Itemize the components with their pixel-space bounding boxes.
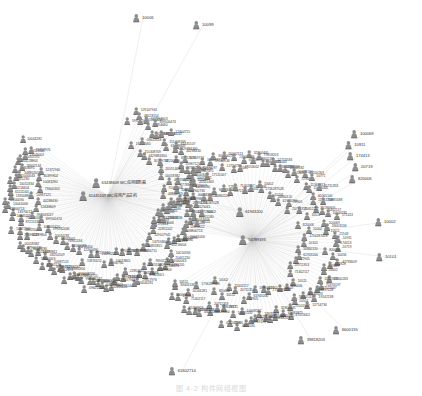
graph-node-label: 1756287028 (201, 283, 219, 286)
person-node-icon (29, 211, 36, 219)
graph-node-label: 174413 (356, 154, 370, 158)
graph-satellite-node[interactable]: 61602714 (168, 367, 196, 376)
graph-node[interactable]: 71402117 (287, 269, 309, 277)
graph-node[interactable]: 20885588 (320, 197, 343, 205)
graph-node[interactable]: 12372940 (8, 226, 31, 234)
person-node-icon (16, 241, 23, 249)
graph-node[interactable]: 09601418 (81, 285, 104, 293)
graph-node[interactable]: 41100263 (218, 320, 240, 328)
graph-node-label: 100069 (360, 132, 374, 136)
graph-node-label: 61445107 (68, 278, 83, 281)
graph-node-label: 63438609 WC应用服务器 (102, 181, 147, 185)
person-node-icon (28, 191, 35, 199)
person-node-icon (303, 212, 310, 220)
graph-satellite-node[interactable]: 100069 (350, 130, 373, 139)
graph-node[interactable]: 10511 (171, 279, 188, 287)
graph-node-label: 10511 (201, 221, 210, 224)
person-node-icon (232, 183, 239, 191)
graph-node-label: 13113048 (144, 272, 158, 275)
graph-node-label: 820006 (219, 290, 230, 293)
person-node-icon (332, 326, 340, 335)
person-node-icon (297, 336, 305, 345)
graph-node-label: 171413 (342, 214, 353, 217)
graph-satellite-node[interactable]: 10006 (133, 14, 154, 23)
person-node-icon (199, 157, 206, 165)
graph-satellite-node[interactable]: 10101 (376, 253, 397, 262)
graph-hub-node[interactable]: 61445107 WC应用产品主机 (79, 191, 138, 201)
graph-satellite-node[interactable]: 6600155 (332, 326, 357, 335)
person-node-icon (79, 258, 86, 266)
graph-node-label: 33003136 (168, 217, 183, 220)
person-node-icon (36, 223, 43, 231)
graph-node-label: 10002 (384, 220, 395, 224)
graph-node-label: 20711353 (324, 185, 338, 188)
graph-node-label: 10002 (328, 269, 337, 272)
graph-node[interactable]: 35199909 (181, 305, 204, 313)
graph-node-label: 72905 (249, 298, 258, 301)
graph-satellite-node[interactable]: 174413 (346, 152, 369, 161)
graph-node[interactable]: 47053002 (236, 164, 259, 172)
graph-satellite-node[interactable]: 20719 (352, 163, 373, 172)
person-node-icon (199, 209, 206, 217)
graph-node[interactable]: 17511007 (204, 172, 226, 180)
graph-node[interactable]: 10002 (320, 267, 337, 275)
graph-node[interactable]: 998543247 (29, 211, 54, 219)
graph-satellite-node[interactable]: 39818203 (297, 336, 325, 345)
person-node-icon (189, 177, 196, 185)
graph-node[interactable]: 10002 (199, 209, 216, 217)
graph-node[interactable]: 09601418 (139, 137, 162, 145)
graph-node-label: 6600155 (342, 328, 358, 332)
person-node-icon (275, 198, 282, 206)
graph-node[interactable]: 19857976 (28, 146, 51, 154)
graph-satellite-node[interactable]: 10911 (345, 141, 366, 150)
graph-node-label: 44288430 (43, 200, 58, 203)
graph-node-label: 820006 (358, 177, 372, 181)
graph-node[interactable]: 00018382 (16, 241, 39, 249)
graph-node-label: 10006 (142, 16, 153, 20)
graph-node-label: 20551463 (165, 168, 180, 171)
graph-node-label: 105105420 (44, 226, 61, 229)
person-node-icon (375, 218, 383, 227)
graph-node[interactable]: 399500474 (151, 119, 176, 127)
person-node-icon (308, 173, 315, 181)
graph-node[interactable]: 12404715 (167, 128, 190, 136)
graph-node[interactable]: 61445107 (60, 276, 83, 284)
graph-satellite-node[interactable]: 10002 (375, 218, 396, 227)
graph-node[interactable]: 72905 (241, 296, 258, 304)
graph-node[interactable]: 1756287028 (193, 281, 219, 289)
graph-node-label: 35199909 (189, 307, 204, 310)
person-node-icon (204, 172, 211, 180)
person-node-icon (60, 276, 67, 284)
person-node-icon (295, 221, 302, 229)
graph-node[interactable]: 10511 (193, 219, 210, 227)
graph-node-label: 10055170 (149, 264, 164, 267)
graph-hub-node[interactable]: 61943200 (235, 207, 262, 217)
graph-node[interactable]: 13370012 (79, 258, 102, 266)
graph-node-label: 61602714 (178, 369, 196, 373)
graph-hub-node[interactable]: 54789193 (238, 235, 265, 245)
graph-node[interactable]: 10771 (308, 173, 325, 181)
graph-satellite-node[interactable]: 10099 (193, 21, 214, 30)
person-node-icon (376, 253, 384, 262)
graph-hub-node[interactable]: 63438609 WC应用服务器 (92, 178, 147, 188)
graph-node-label: 32804405 (281, 307, 296, 310)
graph-node-label: 61943200 (245, 210, 262, 214)
graph-node[interactable]: 37900730 (101, 260, 124, 268)
graph-node-label: 10002 (197, 179, 206, 182)
graph-node-label: 16860120 (259, 287, 274, 290)
graph-node-label: 41100263 (226, 322, 240, 325)
graph-node[interactable]: 10511 (303, 212, 320, 220)
graph-node[interactable]: 10044281 (19, 135, 42, 143)
person-node-icon (193, 21, 201, 30)
graph-node-label: 10771 (316, 175, 325, 178)
graph-node[interactable]: 100069 (168, 292, 187, 300)
person-node-icon (320, 197, 327, 205)
graph-node[interactable]: 105105420 (36, 223, 61, 231)
person-node-icon (219, 163, 226, 171)
graph-node-label: 39818203 (307, 338, 325, 342)
graph-satellite-node[interactable]: 820006 (348, 175, 371, 184)
graph-node[interactable]: 12372940 (38, 167, 61, 175)
graph-node[interactable]: 20711353 (316, 183, 338, 191)
person-node-icon (193, 200, 200, 208)
graph-node[interactable]: 10044281 (47, 232, 70, 240)
